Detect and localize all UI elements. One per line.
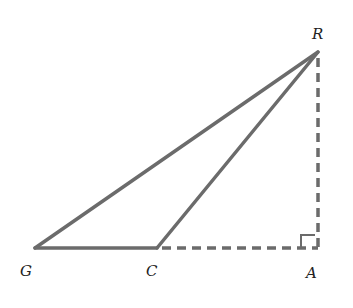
triangle-diagram: R G C A bbox=[0, 0, 353, 308]
label-R: R bbox=[311, 25, 323, 43]
segment-GR bbox=[35, 52, 318, 248]
segment-CR bbox=[157, 52, 318, 248]
label-A: A bbox=[304, 264, 317, 282]
label-G: G bbox=[20, 262, 32, 280]
right-angle-marker bbox=[301, 235, 315, 248]
label-C: C bbox=[146, 262, 158, 280]
